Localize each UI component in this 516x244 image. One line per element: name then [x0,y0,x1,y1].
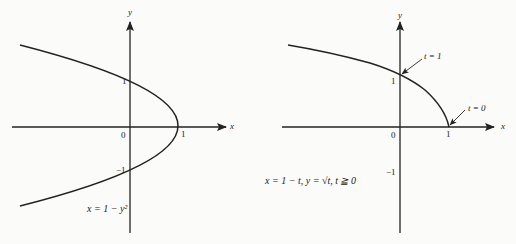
t0-annotation: t = 0 [468,104,486,113]
left-parabola-curve [20,45,178,206]
t1-pointer-arrow [402,59,422,74]
right-y-tick-1: 1 [391,77,396,86]
right-equation-label: x = 1 − t, y = √t, t ≧ 0 [265,176,356,186]
left-plot [12,22,226,233]
left-equation-label: x = 1 − y² [87,204,127,214]
diagram-canvas [0,0,516,244]
right-x-axis-label: x [501,122,505,131]
t0-pointer-arrow [450,110,465,125]
right-y-axis-label: y [398,11,402,20]
right-y-tick-neg1: −1 [386,168,396,177]
right-x-tick-1: 1 [446,130,451,139]
left-x-tick-1: 1 [181,130,186,139]
left-y-tick-1: 1 [122,77,127,86]
t1-annotation: t = 1 [424,52,442,61]
right-origin-label: 0 [391,131,396,140]
left-x-axis-label: x [230,122,234,131]
right-plot [282,22,494,233]
left-y-axis-label: y [128,8,132,17]
left-y-tick-neg1: −1 [116,166,126,175]
left-origin-label: 0 [121,131,126,140]
